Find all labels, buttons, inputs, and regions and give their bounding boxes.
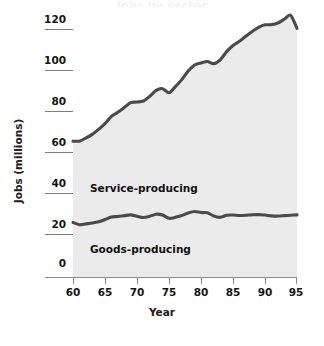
x-tick-label-65: 65: [92, 287, 118, 298]
band-label-goods-producing: Goods-producing: [90, 243, 191, 255]
x-tick-label-95: 95: [283, 287, 309, 298]
x-axis-rule: [45, 277, 297, 278]
x-tick-label-75: 75: [156, 287, 182, 298]
x-tick-label-60: 60: [60, 287, 86, 298]
x-tick-mark-80: [201, 277, 202, 284]
x-tick-mark-65: [105, 277, 106, 284]
x-tick-mark-60: [73, 277, 74, 284]
x-tick-mark-85: [233, 277, 234, 284]
x-tick-mark-90: [265, 277, 266, 284]
x-tick-label-70: 70: [124, 287, 150, 298]
x-axis-title: Year: [0, 306, 324, 318]
x-tick-label-85: 85: [220, 287, 246, 298]
x-tick-label-90: 90: [252, 287, 278, 298]
x-tick-label-80: 80: [188, 287, 214, 298]
x-tick-mark-70: [137, 277, 138, 284]
chart-container: Jobs by sector Jobs (millions) 120 100 8…: [0, 0, 324, 346]
x-tick-mark-95: [296, 277, 297, 284]
area-fill: [73, 15, 297, 277]
x-tick-mark-75: [169, 277, 170, 284]
band-label-service-producing: Service-producing: [90, 182, 198, 194]
